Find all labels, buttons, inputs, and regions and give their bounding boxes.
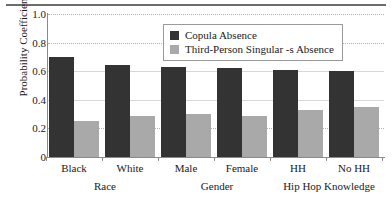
bar-no-hh-series-2 [354,107,379,157]
legend-item-third-person-singular-s-absence: Third-Person Singular -s Absence [170,42,334,56]
x-axis-tick-mark [382,157,383,161]
x-axis-tick-mark [326,157,327,161]
bar-no-hh-series-1 [329,71,354,157]
bar-hh-series-1 [273,70,298,157]
bar-male-series-2 [186,114,211,157]
legend-swatch-icon-light [170,45,179,54]
chart-legend: Copula Absence Third-Person Singular -s … [163,24,343,61]
x-axis-tick-mark [46,157,47,161]
bar-male-series-1 [161,67,186,157]
x-axis-tick-mark [158,157,159,161]
x-axis-line [47,157,385,158]
bar-black-series-2 [74,121,99,157]
legend-label: Third-Person Singular -s Absence [185,43,334,55]
top-divider-rule [6,4,386,6]
y-axis-tick-label: 0.2 [2,123,46,134]
legend-item-copula-absence: Copula Absence [170,28,334,42]
chart-figure: 00.20.40.60.81.0 Probability Coefficient… [0,0,392,205]
legend-label: Copula Absence [185,29,257,41]
gridline [48,14,384,15]
bar-female-series-1 [217,68,242,157]
y-axis-tick-label: 0 [2,152,46,163]
bar-white-series-1 [105,65,130,157]
bar-white-series-2 [130,116,155,157]
legend-swatch-icon-dark [170,31,179,40]
x-axis-tick-mark [102,157,103,161]
bar-hh-series-2 [298,110,323,157]
x-axis-category-label: Male [156,162,216,174]
bar-female-series-2 [242,116,267,157]
x-axis-category-label: HH [268,162,328,174]
x-axis-category-label: White [100,162,160,174]
y-axis-title: Probability Coefficient [17,0,29,121]
x-axis-tick-mark [214,157,215,161]
bar-black-series-1 [49,57,74,157]
x-axis-group-label: Hip Hop Knowledge [269,180,389,192]
x-axis-group-label: Race [45,180,165,192]
x-axis-group-label: Gender [157,180,277,192]
x-axis-category-label: Female [212,162,272,174]
x-axis-tick-mark [270,157,271,161]
x-axis-category-label: Black [44,162,104,174]
x-axis-category-label: No HH [324,162,384,174]
